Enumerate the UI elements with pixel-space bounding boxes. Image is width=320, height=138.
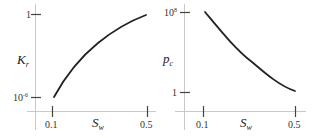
pc-x-axis-label: Sw	[240, 115, 253, 132]
pc-y-tick-label-top: 108	[164, 7, 177, 18]
kr-y-tick-label-top: 1	[26, 9, 31, 20]
kr-x-tick-label-left: 0.1	[45, 119, 58, 130]
chart-kr: 1 10-6 0.1 0.5 Kr Sw	[13, 4, 156, 132]
pc-y-tick-label-bottom: 1	[172, 87, 177, 98]
figure: 1 10-6 0.1 0.5 Kr Sw 108 1 0.1 0.5 pc Sw	[0, 0, 320, 138]
kr-y-axis-label: Kr	[16, 52, 30, 69]
pc-curve	[205, 12, 295, 91]
kr-x-tick-label-right: 0.5	[140, 119, 153, 130]
pc-y-axis-label: pc	[162, 51, 174, 68]
kr-x-axis-label: Sw	[92, 115, 105, 132]
pc-x-tick-label-left: 0.1	[196, 119, 209, 130]
chart-pc: 108 1 0.1 0.5 pc Sw	[162, 4, 306, 132]
pc-x-tick-label-right: 0.5	[288, 119, 301, 130]
kr-y-tick-label-bottom: 10-6	[13, 92, 28, 103]
kr-curve	[54, 15, 146, 97]
